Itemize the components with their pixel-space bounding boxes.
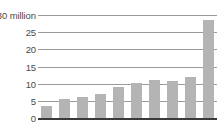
bar-5 xyxy=(113,87,124,118)
bar-9 xyxy=(185,77,196,118)
bar-4 xyxy=(95,94,106,118)
y-axis-labels: $30 million 25 20 15 10 5 0 xyxy=(0,0,36,137)
y-axis-tick-label-15: 15 xyxy=(26,63,36,73)
bar-10 xyxy=(203,20,214,118)
bar-chart: $30 million 25 20 15 10 5 0 xyxy=(0,0,217,137)
y-axis-tick-label-0: 0 xyxy=(31,114,36,124)
bar-1 xyxy=(41,106,52,118)
y-axis-tick-label-10: 10 xyxy=(26,80,36,90)
bar-3 xyxy=(77,97,88,118)
bar-2 xyxy=(59,99,70,118)
plot-area xyxy=(38,0,217,137)
x-axis-baseline xyxy=(38,118,217,120)
bar-6 xyxy=(131,83,142,118)
bars-layer xyxy=(38,0,217,137)
bar-8 xyxy=(167,81,178,118)
y-axis-tick-label-30: $30 million xyxy=(0,11,36,21)
y-axis-tick-label-20: 20 xyxy=(26,45,36,55)
y-axis-tick-label-25: 25 xyxy=(26,28,36,38)
bar-7 xyxy=(149,80,160,118)
y-axis-tick-label-5: 5 xyxy=(31,97,36,107)
